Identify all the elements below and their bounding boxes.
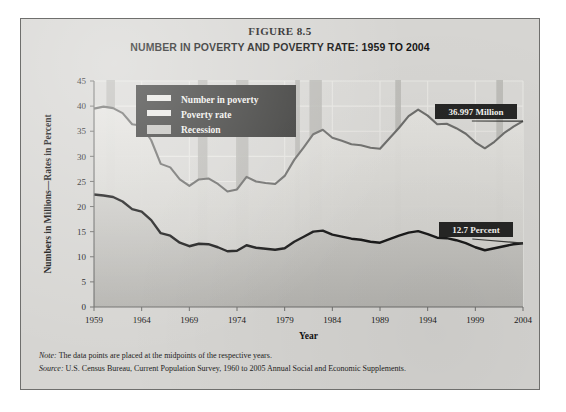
legend-label: Recession <box>181 125 221 135</box>
y-tick-label: 25 <box>77 177 87 187</box>
chart-legend: Number in povertyPoverty rateRecession <box>136 85 296 137</box>
x-tick-label: 1979 <box>276 315 295 325</box>
legend-swatch <box>147 110 171 116</box>
figure-notes: Note: The data points are placed at the … <box>39 350 525 375</box>
callout-label: 12.7 Percent <box>452 225 499 235</box>
y-tick-label: 15 <box>77 227 87 237</box>
x-tick-label: 1984 <box>323 315 342 325</box>
y-axis-title: Numbers in Millions—Rates in Percent <box>43 114 53 274</box>
x-tick-label: 1999 <box>466 315 485 325</box>
x-tick-label: 2004 <box>514 315 533 325</box>
y-tick-label: 0 <box>82 302 87 312</box>
x-axis-title: Year <box>299 331 319 341</box>
note-label: Note: <box>39 351 57 360</box>
x-tick-label: 1969 <box>180 315 199 325</box>
source-line: Source: U.S. Census Bureau, Current Popu… <box>39 363 525 375</box>
y-tick-label: 30 <box>77 152 87 162</box>
legend-label: Poverty rate <box>181 110 231 120</box>
y-axis-ticks: 051015202530354045 <box>77 76 94 312</box>
x-tick-label: 1974 <box>228 315 247 325</box>
note-line: Note: The data points are placed at the … <box>39 350 525 362</box>
callout-number-in-poverty: 36.997 Million <box>435 104 523 121</box>
chart-plot-area: 0510152025303540451959196419691974197919… <box>21 19 541 391</box>
y-tick-label: 35 <box>77 126 87 136</box>
source-label: Source: <box>39 364 64 373</box>
x-tick-label: 1989 <box>371 315 390 325</box>
callout-label: 36.997 Million <box>448 107 503 117</box>
legend-swatch <box>147 95 171 101</box>
legend-label: Number in poverty <box>181 95 259 105</box>
x-axis-ticks: 1959196419691974197919841989199419992004 <box>85 307 533 325</box>
y-tick-label: 10 <box>77 252 87 262</box>
source-text: U.S. Census Bureau, Current Population S… <box>64 364 406 373</box>
poverty-chart: 0510152025303540451959196419691974197919… <box>21 19 541 391</box>
x-tick-label: 1994 <box>419 315 438 325</box>
y-tick-label: 5 <box>82 277 87 287</box>
figure-panel: FIGURE 8.5 NUMBER IN POVERTY AND POVERTY… <box>20 18 540 390</box>
y-tick-label: 40 <box>77 101 87 111</box>
note-text: The data points are placed at the midpoi… <box>57 351 272 360</box>
legend-swatch <box>147 125 171 134</box>
x-tick-label: 1959 <box>85 315 104 325</box>
y-tick-label: 20 <box>77 202 87 212</box>
y-tick-label: 45 <box>77 76 87 86</box>
x-tick-label: 1964 <box>133 315 152 325</box>
